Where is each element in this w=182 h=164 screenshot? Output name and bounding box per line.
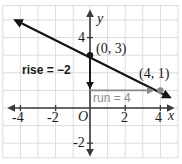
x-tick-label--4: -4 [12, 111, 24, 125]
run-annotation-label: run = 4 [93, 92, 131, 104]
slope-graph-figure: y x O -4 -2 2 4 4 -2 (0, 3) (4, 1) rise … [0, 0, 182, 164]
x-tick-label-4: 4 [155, 111, 162, 125]
point-0-3 [87, 52, 93, 58]
axes [9, 11, 173, 155]
origin-label: O [78, 110, 88, 124]
point-4-1 [157, 87, 163, 93]
y-axis-label: y [97, 12, 103, 26]
y-tick-label-4: 4 [78, 31, 85, 45]
point-label-0-3: (0, 3) [96, 42, 126, 56]
coordinate-plane-svg [0, 0, 182, 164]
x-axis-label: x [168, 109, 174, 123]
point-label-4-1: (4, 1) [139, 67, 169, 81]
y-tick-label--2: -2 [73, 136, 85, 150]
x-tick-label--2: -2 [47, 111, 59, 125]
x-tick-label-2: 2 [121, 111, 128, 125]
rise-annotation-label: rise = −2 [22, 64, 71, 76]
